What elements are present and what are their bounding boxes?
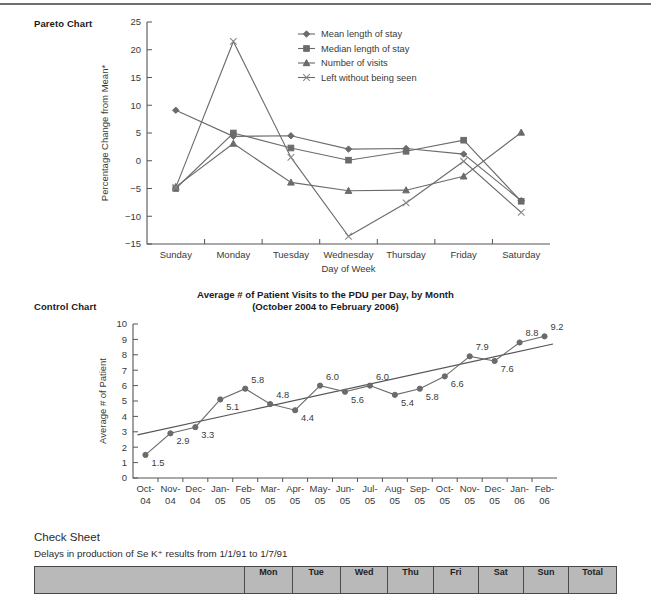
- data-point-label: 5.4: [401, 398, 414, 408]
- x-tick-label: Friday: [450, 249, 477, 260]
- series-marker: [518, 198, 524, 204]
- x-tick-label-year: 05: [340, 495, 351, 506]
- data-point-label: 2.9: [176, 436, 189, 446]
- x-tick-label-year: 05: [315, 495, 326, 506]
- legend-label: Number of visits: [321, 58, 388, 68]
- series-marker: [218, 397, 223, 402]
- y-tick-label: 5: [136, 127, 141, 138]
- control-chart-title: Average # of Patient Visits to the PDU p…: [0, 289, 651, 312]
- y-tick-label: 1: [122, 457, 127, 468]
- data-point-label: 8.8: [526, 328, 539, 338]
- x-axis-title: Day of Week: [321, 263, 375, 274]
- x-tick-label-year: 05: [365, 495, 376, 506]
- x-tick-label-year: 05: [215, 495, 226, 506]
- data-point-label: 4.8: [276, 390, 289, 400]
- legend-marker: [303, 31, 309, 37]
- series-marker: [173, 107, 179, 113]
- series-marker: [288, 154, 295, 161]
- x-tick-label-year: 05: [489, 495, 500, 506]
- check-sheet-column-header: Wed: [340, 567, 388, 594]
- series-marker: [461, 137, 467, 143]
- x-tick-label-month: Feb-: [235, 483, 255, 494]
- check-sheet-subheading: Delays in production of Se K⁺ results fr…: [34, 548, 288, 559]
- y-tick-label: 25: [130, 16, 141, 27]
- x-tick-label-year: 05: [240, 495, 251, 506]
- data-point-label: 6.0: [326, 372, 339, 382]
- x-tick-label-year: 05: [439, 495, 450, 506]
- check-sheet-column-header: Mon: [244, 567, 292, 594]
- control-chart: 012345678910Oct-04Nov-04Dec-04Jan-05Feb-…: [95, 316, 575, 524]
- x-tick-label-year: 05: [415, 495, 426, 506]
- y-tick-label: 7: [122, 365, 127, 376]
- x-tick-label: Saturday: [502, 249, 540, 260]
- x-tick-label-year: 04: [165, 495, 176, 506]
- x-tick-label-month: Jun-: [336, 483, 354, 494]
- x-tick-label-year: 06: [539, 495, 550, 506]
- pareto-chart-label: Pareto Chart: [34, 18, 92, 29]
- series-marker: [542, 334, 547, 339]
- x-tick-label-month: Dec-: [185, 483, 205, 494]
- y-tick-label: 6: [122, 380, 127, 391]
- y-tick-label: 3: [122, 426, 127, 437]
- y-tick-label: −15: [125, 238, 141, 249]
- series-marker: [367, 383, 372, 388]
- y-tick-label: 15: [130, 72, 141, 83]
- x-tick-label-year: 04: [190, 495, 201, 506]
- legend-label: Left without being seen: [321, 73, 417, 83]
- series-marker: [403, 200, 410, 207]
- y-tick-label: −10: [125, 211, 141, 222]
- y-tick-label: 9: [122, 334, 127, 345]
- x-tick-label-month: Aug-: [385, 483, 405, 494]
- check-sheet-header-row: MonTueWedThuFriSatSunTotal: [35, 567, 617, 594]
- series-marker: [417, 386, 422, 391]
- series-marker: [293, 408, 298, 413]
- pareto-legend: Mean length of stayMedian length of stay…: [298, 29, 417, 83]
- y-tick-label: 8: [122, 349, 127, 360]
- legend-label: Mean length of stay: [321, 29, 402, 39]
- legend-label: Median length of stay: [321, 44, 410, 54]
- check-sheet-column-header: Sun: [523, 567, 568, 594]
- check-sheet-column-header: [35, 567, 245, 594]
- control-chart-label: Control Chart: [34, 301, 97, 312]
- x-tick-label-month: Mar-: [260, 483, 280, 494]
- pareto-axes: [147, 22, 550, 244]
- x-tick-label-month: May-: [309, 483, 330, 494]
- data-point-label: 7.6: [501, 364, 514, 374]
- series-marker: [467, 354, 472, 359]
- check-sheet-table: MonTueWedThuFriSatSunTotal: [34, 566, 617, 594]
- series-marker: [288, 133, 294, 139]
- series-marker: [268, 401, 273, 406]
- x-tick-label-year: 05: [290, 495, 301, 506]
- check-sheet-heading: Check Sheet: [34, 531, 100, 543]
- series-marker: [492, 358, 497, 363]
- x-tick-label: Sunday: [160, 249, 192, 260]
- data-point-label: 6.0: [376, 372, 389, 382]
- x-tick-label-month: Feb-: [535, 483, 555, 494]
- data-point-label: 1.5: [151, 458, 164, 468]
- x-tick-label-month: Sep-: [410, 483, 430, 494]
- check-sheet-column-header: Total: [569, 567, 617, 594]
- legend-marker: [304, 46, 310, 52]
- series-marker: [230, 38, 237, 45]
- check-sheet-column-header: Fri: [433, 567, 478, 594]
- x-tick-label-month: Oct-: [136, 483, 154, 494]
- x-tick-label-month: Oct-: [436, 483, 454, 494]
- x-tick-label: Monday: [216, 249, 250, 260]
- y-tick-label: 2: [122, 442, 127, 453]
- check-sheet-column-header: Thu: [388, 567, 433, 594]
- x-tick-label: Tuesday: [273, 249, 309, 260]
- series-marker: [460, 158, 467, 165]
- pareto-chart: −15−10−50510152025SundayMondayTuesdayWed…: [95, 10, 565, 285]
- data-point-label: 5.6: [351, 395, 364, 405]
- top-divider-rule: [0, 3, 651, 5]
- series-marker: [460, 173, 467, 179]
- data-point-label: 4.4: [301, 413, 314, 423]
- series-marker: [518, 209, 525, 216]
- series-marker: [392, 392, 397, 397]
- series-marker: [342, 389, 347, 394]
- data-point-label: 5.1: [226, 402, 239, 412]
- series-marker: [193, 425, 198, 430]
- series-marker: [517, 340, 522, 345]
- series-marker: [168, 431, 173, 436]
